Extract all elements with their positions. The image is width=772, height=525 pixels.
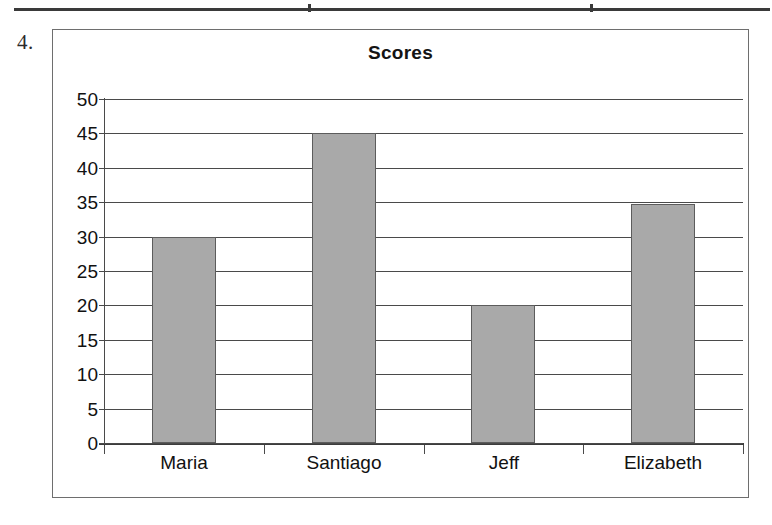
y-axis-tick-label: 15 [54, 330, 98, 349]
y-axis-tick-label: 25 [54, 262, 98, 281]
y-axis-tick [99, 202, 104, 203]
gridline [104, 133, 743, 134]
chart-title: Scores [53, 42, 748, 64]
gridline [104, 202, 743, 203]
table-fragment [14, 4, 770, 14]
y-axis-tick [99, 443, 104, 444]
question-number: 4. [17, 30, 34, 55]
x-axis-category-label: Elizabeth [583, 453, 743, 472]
plot-area [104, 99, 743, 443]
y-axis-tick [99, 168, 104, 169]
bar [312, 133, 376, 443]
y-axis-tick [99, 374, 104, 375]
bar [631, 204, 695, 443]
y-axis-tick-label: 0 [54, 434, 98, 453]
y-axis-tick [99, 271, 104, 272]
x-axis-category-label: Maria [104, 453, 264, 472]
y-axis-tick-label: 20 [54, 296, 98, 315]
bar [152, 237, 216, 443]
y-axis-tick-labels: 50454035302520151050 [53, 99, 98, 443]
y-axis-tick [99, 99, 104, 100]
gridline [104, 443, 743, 444]
x-axis-category-label: Jeff [424, 453, 584, 472]
y-axis-tick-label: 10 [54, 365, 98, 384]
gridline [104, 99, 743, 100]
y-axis-tick [99, 340, 104, 341]
y-axis-tick-label: 45 [54, 124, 98, 143]
y-axis-tick-label: 5 [54, 399, 98, 418]
table-column-divider-1 [308, 4, 311, 12]
bar [471, 305, 535, 443]
table-bottom-rule [14, 8, 770, 11]
table-column-divider-2 [590, 4, 593, 12]
y-axis-tick [99, 409, 104, 410]
x-axis-category-divider [743, 445, 744, 454]
y-axis-tick [99, 133, 104, 134]
x-axis-category-label: Santiago [264, 453, 424, 472]
y-axis-tick [99, 305, 104, 306]
y-axis-tick [99, 237, 104, 238]
bar-chart: Scores 50454035302520151050 MariaSantiag… [52, 29, 749, 498]
gridline [104, 168, 743, 169]
y-axis-tick-label: 35 [54, 193, 98, 212]
x-axis-category-labels: MariaSantiagoJeffElizabeth [104, 445, 744, 485]
y-axis-tick-label: 50 [54, 90, 98, 109]
y-axis-tick-label: 40 [54, 158, 98, 177]
y-axis-tick-label: 30 [54, 227, 98, 246]
